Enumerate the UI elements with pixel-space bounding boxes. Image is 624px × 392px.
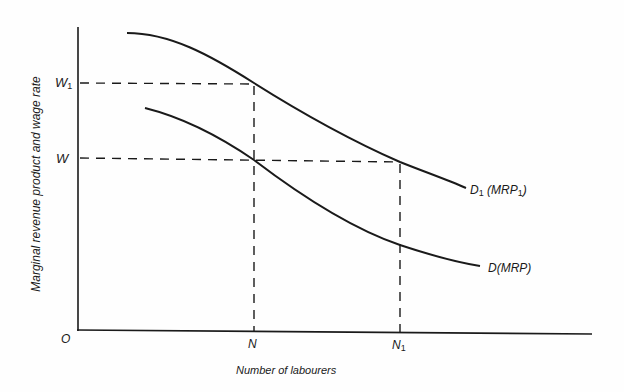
d1-mrp1-curve bbox=[127, 33, 466, 188]
w-dashed-line bbox=[80, 158, 400, 162]
d-mrp-label: D(MRP) bbox=[488, 262, 531, 274]
y-axis-label: Marginal revenue product and wage rate bbox=[29, 76, 43, 291]
chart-canvas bbox=[0, 0, 624, 392]
w1-dashed-line bbox=[80, 83, 254, 84]
x-axis-label: Number of labourers bbox=[236, 365, 336, 376]
n1-label: N1 bbox=[392, 339, 406, 353]
origin-label: O bbox=[61, 333, 70, 345]
d-mrp-curve bbox=[145, 108, 480, 266]
n-label: N bbox=[248, 338, 257, 352]
w-label: W bbox=[56, 152, 68, 167]
x-axis bbox=[77, 330, 592, 334]
d1-mrp1-label: D1 (MRP1) bbox=[470, 184, 527, 198]
w1-label: W1 bbox=[55, 76, 72, 91]
